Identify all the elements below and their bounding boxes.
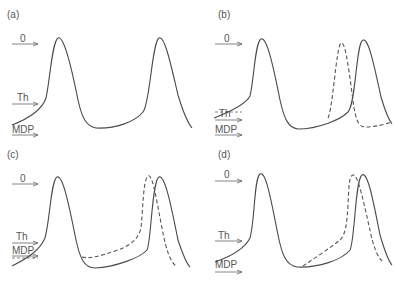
zero-label: 0 [20,33,26,44]
panel-d: (d) 0 Th MDP [215,149,392,272]
panel-label-a: (a) [7,9,19,20]
action-potential-trace-solid [215,174,392,267]
action-potential-trace-dashed [328,43,392,127]
panel-c: (c) 0 Th MDP [7,149,190,268]
panel-b: (b) 0 Th MDP [214,9,392,135]
pacemaker-action-potential-figure: (a) 0 Th MDP (b) 0 Th MDP [0,0,402,282]
zero-label: 0 [20,173,26,184]
zero-level-marker: 0 [215,169,242,181]
panel-label-b: (b) [218,9,230,20]
threshold-label: Th [16,231,28,242]
zero-label: 0 [224,169,230,180]
panel-a: (a) 0 Th MDP [7,9,192,135]
threshold-level-marker: Th [12,92,38,104]
zero-level-marker: 0 [215,33,242,44]
action-potential-trace-dashed [82,176,176,266]
threshold-level-marker: Th [215,108,242,120]
mdp-label: MDP [12,124,35,135]
zero-level-marker: 0 [12,33,38,44]
action-potential-trace-solid [214,39,392,129]
action-potential-trace-solid [12,177,190,268]
mdp-level-marker: MDP [12,245,38,258]
threshold-label: Th [218,230,230,241]
zero-level-marker: 0 [12,173,38,184]
zero-label: 0 [224,33,230,44]
threshold-level-marker: Th [12,231,38,243]
threshold-level-marker: Th [215,230,242,241]
mdp-level-marker: MDP [215,124,242,135]
action-potential-trace-solid [12,38,192,128]
panel-label-c: (c) [7,149,19,160]
panel-label-d: (d) [218,149,230,160]
mdp-label: MDP [215,124,238,135]
threshold-label: Th [17,92,29,103]
mdp-level-marker: MDP [12,124,38,135]
